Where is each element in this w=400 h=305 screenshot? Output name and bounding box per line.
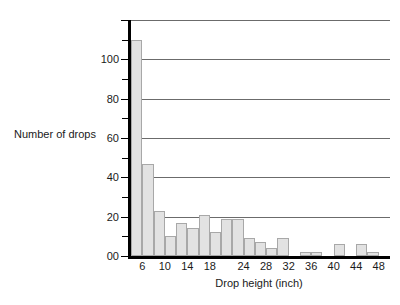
y-tick-label-00: 00 <box>107 251 119 262</box>
bars-series <box>131 20 390 256</box>
x-axis-line <box>128 256 390 259</box>
x-tick-label-32: 32 <box>283 260 295 273</box>
x-axis-title: Drop height (inch) <box>128 277 390 290</box>
bar <box>131 40 142 256</box>
x-tick-label-48: 48 <box>373 260 385 273</box>
histogram-chart: Number of drops 0020406080100 6101418242… <box>0 0 400 305</box>
x-tick-label-10: 10 <box>159 260 171 273</box>
y-tick-label-20: 20 <box>107 211 119 222</box>
x-tick-label-18: 18 <box>204 260 216 273</box>
x-tick-label-44: 44 <box>350 260 362 273</box>
bar <box>176 223 187 256</box>
y-tick-label-100: 100 <box>101 54 119 65</box>
bar <box>210 232 221 256</box>
bar <box>199 215 210 256</box>
x-tick-label-36: 36 <box>305 260 317 273</box>
bar <box>154 211 165 256</box>
x-tick-label-40: 40 <box>328 260 340 273</box>
y-tick-label-60: 60 <box>107 133 119 144</box>
bar <box>266 248 277 256</box>
y-tick-label-40: 40 <box>107 172 119 183</box>
x-tick-label-28: 28 <box>260 260 272 273</box>
y-tick-label-80: 80 <box>107 93 119 104</box>
plot-area: 0020406080100 <box>128 20 390 258</box>
bar <box>244 238 255 256</box>
bar <box>255 242 266 256</box>
x-tick-label-14: 14 <box>181 260 193 273</box>
y-axis-title: Number of drops <box>14 128 96 141</box>
x-axis-tick-labels: 610141824283236404448 <box>128 260 390 276</box>
x-tick-label-6: 6 <box>139 260 145 273</box>
bar <box>142 164 153 256</box>
y-axis-line <box>128 20 131 258</box>
bar <box>165 236 176 256</box>
bar <box>232 219 243 256</box>
x-tick-label-24: 24 <box>237 260 249 273</box>
bar <box>187 228 198 256</box>
bar <box>334 244 345 256</box>
bar <box>277 238 288 256</box>
bar <box>221 219 232 256</box>
bar <box>356 244 367 256</box>
